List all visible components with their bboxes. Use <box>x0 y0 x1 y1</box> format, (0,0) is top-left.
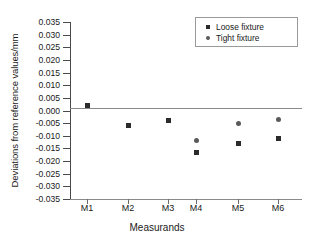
y-tick <box>63 47 70 48</box>
x-tick-label: M6 <box>263 203 293 213</box>
x-tick-label: M3 <box>153 203 183 213</box>
y-tick-label: -0.015 <box>16 143 60 153</box>
data-point <box>166 118 171 123</box>
x-axis-title: Measurands <box>0 222 314 233</box>
data-point <box>194 138 199 143</box>
y-tick <box>63 22 70 23</box>
y-tick <box>63 186 70 187</box>
y-tick-label: -0.010 <box>16 131 60 141</box>
y-tick-label: 0.030 <box>16 30 60 40</box>
x-tick-label: M1 <box>72 203 102 213</box>
data-point <box>236 141 241 146</box>
y-tick-label: 0.020 <box>16 55 60 65</box>
y-tick <box>63 35 70 36</box>
data-point <box>276 136 281 141</box>
y-tick-label: -0.030 <box>16 181 60 191</box>
data-point <box>85 103 90 108</box>
zero-reference-line <box>70 108 302 109</box>
y-tick <box>63 148 70 149</box>
legend-item-tight-fixture: Tight fixture <box>200 32 293 43</box>
y-tick-label: 0.025 <box>16 42 60 52</box>
y-tick <box>63 98 70 99</box>
data-point <box>276 117 281 122</box>
y-axis-line <box>70 22 71 200</box>
y-tick-label: -0.005 <box>16 118 60 128</box>
y-tick <box>63 199 70 200</box>
y-tick-label: 0.005 <box>16 93 60 103</box>
x-tick-label: M5 <box>223 203 253 213</box>
y-tick-label: 0.015 <box>16 68 60 78</box>
y-tick <box>63 161 70 162</box>
data-point <box>126 123 131 128</box>
y-tick <box>63 60 70 61</box>
y-tick-label: -0.025 <box>16 169 60 179</box>
legend-label-tight-fixture: Tight fixture <box>216 33 259 43</box>
y-tick <box>63 111 70 112</box>
y-tick-label: 0.000 <box>16 106 60 116</box>
y-tick <box>63 73 70 74</box>
y-tick-label: -0.035 <box>16 194 60 204</box>
x-tick-label: M2 <box>113 203 143 213</box>
y-tick <box>63 136 70 137</box>
legend-item-loose-fixture: Loose fixture <box>200 21 293 32</box>
legend-label-loose-fixture: Loose fixture <box>216 22 264 32</box>
x-tick-label: M4 <box>181 203 211 213</box>
y-tick <box>63 123 70 124</box>
y-tick-label: 0.010 <box>16 80 60 90</box>
chart-legend: Loose fixture Tight fixture <box>195 17 298 47</box>
y-tick <box>63 174 70 175</box>
chart-figure: Deviations from reference values/mm 0.03… <box>0 0 314 245</box>
y-tick-label: 0.035 <box>16 17 60 27</box>
square-marker-icon <box>200 25 216 29</box>
y-tick <box>63 85 70 86</box>
x-axis-line <box>70 199 302 200</box>
circle-marker-icon <box>200 36 216 40</box>
data-point <box>194 150 199 155</box>
data-point <box>236 121 241 126</box>
y-tick-label: -0.020 <box>16 156 60 166</box>
